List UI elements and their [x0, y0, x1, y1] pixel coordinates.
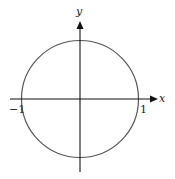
tick-label-neg-one: −1 [9, 104, 25, 115]
x-axis-label: x [159, 93, 165, 104]
x-axis-arrow-icon [150, 96, 158, 103]
unit-circle-figure: x y −1 1 [0, 0, 175, 179]
tick-label-one: 1 [140, 104, 147, 115]
y-axis-arrow-icon [77, 21, 84, 29]
y-axis-label: y [76, 6, 82, 17]
plot-area [0, 0, 175, 179]
